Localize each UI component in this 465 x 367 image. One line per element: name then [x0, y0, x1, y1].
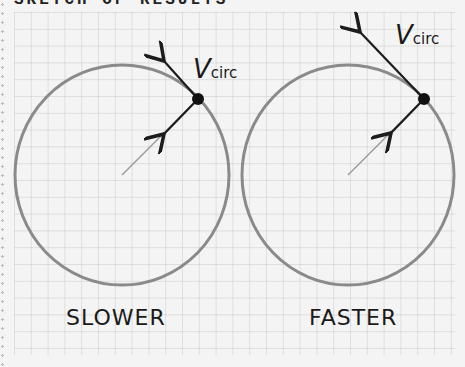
velocity-label-faster: Vcirc	[395, 20, 439, 50]
velocity-symbol: V	[193, 54, 211, 84]
orbiting-body	[418, 93, 430, 105]
faster-label: FASTER	[309, 305, 397, 330]
orbiting-body	[192, 93, 204, 105]
velocity-symbol: V	[395, 20, 413, 50]
velocity-subscript: circ	[211, 64, 238, 82]
velocity-subscript: circ	[413, 30, 440, 48]
velocity-label-slower: Vcirc	[193, 54, 237, 84]
slower-label: SLOWER	[66, 305, 166, 330]
